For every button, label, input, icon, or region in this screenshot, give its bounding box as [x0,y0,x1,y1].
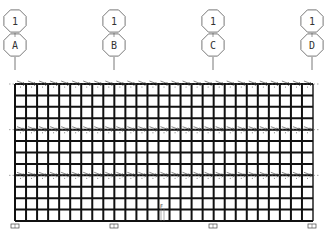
structural-drawing: 1A1B1C1D F [0,0,326,237]
axis-bubble-b: 1B [103,10,125,70]
center-mark: F [160,203,164,221]
grid-mesh [15,84,313,221]
axis-letter: A [12,40,18,51]
axis-letter: C [210,40,216,51]
axis-letter: D [309,40,315,51]
axis-bubbles: 1A1B1C1D [4,10,323,70]
axis-number: 1 [12,16,18,27]
axis-number: 1 [111,16,117,27]
axis-letter: B [111,40,117,51]
center-mark-label: F [160,203,163,209]
supports [11,224,316,228]
axis-number: 1 [210,16,216,27]
axis-bubble-a: 1A [4,10,26,70]
axis-bubble-c: 1C [202,10,224,70]
axis-number: 1 [309,16,315,27]
axis-bubble-d: 1D [301,10,323,70]
